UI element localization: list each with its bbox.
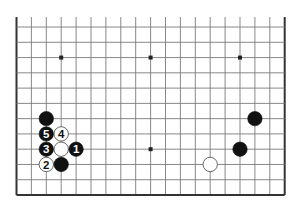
white-stone [203, 157, 217, 171]
black-stone: 3 [39, 142, 53, 156]
stone-circle [203, 157, 217, 171]
black-stone [54, 157, 68, 171]
star-point [149, 56, 153, 60]
black-stone [233, 142, 247, 156]
move-number: 4 [58, 128, 65, 140]
move-number: 2 [43, 159, 49, 171]
stone-circle [248, 111, 262, 125]
move-number: 1 [73, 143, 80, 155]
stone-circle [54, 142, 68, 156]
star-point [59, 56, 63, 60]
black-stone [39, 111, 53, 125]
black-stone [248, 111, 262, 125]
white-stone: 2 [39, 157, 53, 171]
black-stone: 1 [69, 142, 83, 156]
white-stone: 4 [54, 127, 68, 141]
star-point [149, 147, 153, 151]
stone-circle [39, 111, 53, 125]
stone-circle [233, 142, 247, 156]
black-stone: 5 [39, 127, 53, 141]
go-board: 54312 [0, 0, 295, 210]
move-number: 3 [43, 143, 49, 155]
move-number: 5 [43, 128, 50, 140]
white-stone [54, 142, 68, 156]
stone-circle [54, 157, 68, 171]
star-point [238, 56, 242, 60]
